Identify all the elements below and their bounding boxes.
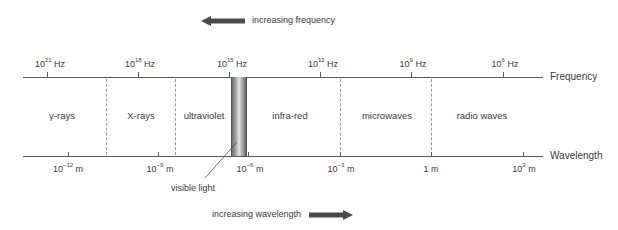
region-divider [106, 79, 107, 155]
wavelength-tick-label: 10−9 m [147, 163, 174, 174]
wavelength-tick-label: 10−3 m [328, 163, 355, 174]
frequency-axis-line [23, 77, 543, 78]
frequency-tick-label: 1021 Hz [35, 58, 65, 69]
visible-light-label: visible light [171, 183, 215, 193]
frequency-tick-label: 1012 Hz [308, 58, 338, 69]
region-divider [431, 79, 432, 155]
arrow-right-icon [309, 210, 353, 220]
frequency-tick [229, 72, 230, 77]
region-microwaves: microwaves [362, 110, 412, 121]
frequency-tick [320, 72, 321, 77]
wavelength-tick [68, 152, 69, 157]
wavelength-tick-label: 1 m [423, 163, 438, 174]
region-infra-red: infra-red [272, 110, 307, 121]
frequency-axis-label: Frequency [550, 71, 597, 82]
visible-light-leader-line [200, 140, 250, 180]
region-divider [175, 79, 176, 155]
increasing-frequency-label: increasing frequency [252, 15, 335, 25]
increasing-wavelength-label: increasing wavelength [212, 209, 301, 219]
wavelength-tick [158, 152, 159, 157]
region-ultraviolet: ultraviolet [184, 110, 225, 121]
frequency-tick-label: 1018 Hz [125, 58, 155, 69]
frequency-tick [138, 72, 139, 77]
frequency-tick-label: 1015 Hz [217, 58, 247, 69]
wavelength-tick-label: 103 m [512, 163, 535, 174]
frequency-tick-label: 106 Hz [492, 58, 519, 69]
region-radio-waves: radio waves [457, 110, 508, 121]
region-x-rays: X-rays [127, 110, 154, 121]
region-divider [340, 79, 341, 155]
frequency-tick [411, 72, 412, 77]
frequency-tick-label: 109 Hz [400, 58, 427, 69]
frequency-tick [503, 72, 504, 77]
wavelength-tick [431, 152, 432, 157]
wavelength-tick-label: 10−12 m [53, 163, 83, 174]
wavelength-axis-line [23, 156, 543, 157]
frequency-tick [47, 72, 48, 77]
arrow-left-icon [201, 16, 245, 26]
wavelength-tick [340, 152, 341, 157]
wavelength-axis-label: Wavelength [550, 150, 602, 161]
wavelength-tick [523, 152, 524, 157]
region-gamma-rays: γ-rays [49, 110, 75, 121]
